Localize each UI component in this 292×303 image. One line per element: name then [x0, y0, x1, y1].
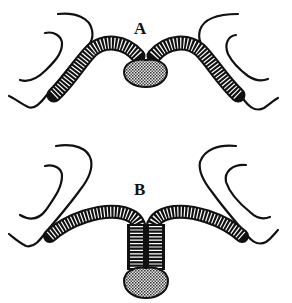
panel-b-oval-body: [124, 268, 168, 298]
diagram-svg: A B: [0, 0, 292, 303]
panel-b-label: B: [134, 180, 145, 199]
panel-a: A: [9, 14, 278, 110]
panel-a-oval-body: [124, 60, 167, 87]
panel-b-stalk: [127, 224, 165, 270]
panel-a-right-inner-hook: [226, 35, 268, 80]
panel-a-label: A: [134, 19, 147, 38]
panel-b-commissure-right: [152, 212, 242, 236]
diagram-canvas: A B: [0, 0, 292, 303]
panel-b-commissure-left: [50, 212, 140, 236]
panel-b-left-inner-hook: [20, 165, 62, 218]
panel-a-left-inner-hook: [20, 33, 62, 81]
panel-b-right-inner-hook: [226, 165, 270, 218]
panel-b: B: [9, 145, 278, 298]
